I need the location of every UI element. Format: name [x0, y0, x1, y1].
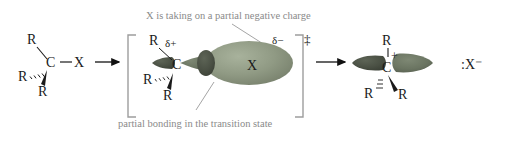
caption-bottom: partial bonding in the transition state — [118, 118, 273, 129]
product-leaving-ion: :X⁻ — [461, 57, 482, 72]
reactant-hash-bond — [30, 74, 45, 80]
leader-line-bottom — [196, 82, 214, 110]
reactant-r-top: R — [27, 32, 37, 47]
reactant-r-left: R — [18, 69, 28, 84]
delta-positive-label: δ+ — [165, 37, 176, 49]
product-wedge-bond — [388, 75, 398, 92]
transition-leaving-group: X — [247, 58, 257, 73]
transition-center-atom: C — [172, 57, 181, 72]
product-orbital-lobe-right — [392, 54, 433, 73]
product-hash-bond — [376, 80, 383, 88]
double-dagger-symbol: ‡ — [304, 32, 311, 47]
transition-state-structure: X R δ+ C R R δ− — [143, 33, 293, 103]
transition-r-left: R — [143, 72, 153, 87]
reactant-r-bottom: R — [38, 84, 48, 99]
product-charge: + — [391, 49, 398, 63]
transition-r-top: R — [149, 33, 159, 48]
transition-r-bottom: R — [163, 88, 173, 103]
reactant-center-atom: C — [46, 55, 55, 70]
reaction-mechanism-figure: X is taking on a partial negative charge… — [0, 0, 507, 142]
product-orbital-lobe-left — [352, 55, 386, 70]
orbital-overlap-node — [197, 50, 215, 76]
transition-hash-bond — [155, 77, 169, 82]
delta-negative-label: δ− — [272, 34, 283, 46]
reactant-structure: R C R R X — [18, 32, 84, 99]
reactant-leaving-group: X — [74, 55, 84, 70]
caption-top: X is taking on a partial negative charge — [146, 10, 311, 21]
product-r-bottom: R — [398, 87, 408, 102]
product-r-top: R — [382, 33, 392, 48]
product-center-atom: C — [382, 60, 391, 75]
product-structure: R + C R R — [352, 33, 433, 102]
product-r-left: R — [364, 86, 374, 101]
